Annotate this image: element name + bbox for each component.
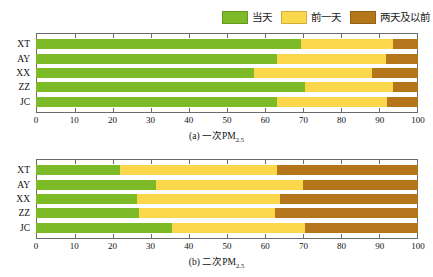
caption-subscript: 2.5: [236, 262, 244, 269]
y-axis-labels-b: XTAYXXZZJC: [0, 159, 33, 239]
bar-segment-ay-2: [303, 180, 418, 190]
x-axis-tick-50: 50: [223, 240, 232, 253]
subplot-caption-b: (b) 二次PM2.5: [0, 254, 433, 269]
bar-segment-ay-0: [36, 180, 156, 190]
caption-subscript: 2.5: [236, 136, 244, 143]
bar-row-jc: [36, 223, 418, 233]
bar-segment-xx-0: [36, 68, 254, 78]
x-axis-tick-20: 20: [108, 240, 117, 253]
x-axis-tick-90: 90: [375, 240, 384, 253]
y-axis-labels-a: XTAYXXZZJC: [0, 33, 33, 113]
bar-segment-xx-0: [36, 194, 137, 204]
y-axis-label-xt: XT: [0, 39, 33, 49]
bar-segment-xt-0: [36, 165, 120, 175]
bar-segment-zz-0: [36, 82, 305, 92]
x-axis-tick-80: 80: [337, 240, 346, 253]
y-axis-label-jc: JC: [0, 223, 33, 233]
bar-segment-xt-2: [277, 165, 418, 175]
bar-segment-xt-1: [120, 165, 277, 175]
bar-segment-xt-1: [301, 39, 393, 49]
subplot-caption-a: (a) 一次PM2.5: [0, 128, 433, 143]
x-axis-tick-0: 0: [34, 240, 39, 253]
plot-area-a: XTAYXXZZJC 0102030405060708090100: [0, 33, 433, 113]
legend-swatch-same-day-icon: [222, 11, 248, 24]
bar-segment-jc-1: [172, 223, 306, 233]
legend-item-2: 两天及以前: [350, 11, 430, 24]
y-axis-label-xx: XX: [0, 68, 33, 78]
x-axis-tick-100: 100: [411, 240, 425, 253]
y-axis-label-xx: XX: [0, 194, 33, 204]
bar-segment-jc-0: [36, 223, 172, 233]
x-axis-tick-40: 40: [184, 240, 193, 253]
caption-main: (a) 一次PM: [189, 131, 236, 141]
bar-segment-xx-1: [137, 194, 280, 204]
bar-row-xx: [36, 194, 418, 204]
bar-segment-jc-1: [277, 97, 388, 107]
bar-segment-jc-2: [305, 223, 418, 233]
x-axis-tick-90: 90: [375, 114, 384, 127]
x-axis-tick-10: 10: [70, 114, 79, 127]
bar-segment-xx-1: [254, 68, 372, 78]
bar-segment-zz-1: [305, 82, 393, 92]
x-axis-tick-40: 40: [184, 114, 193, 127]
bar-segment-zz-0: [36, 208, 139, 218]
x-axis-tick-10: 10: [70, 240, 79, 253]
y-axis-label-jc: JC: [0, 97, 33, 107]
x-axis-tick-60: 60: [261, 240, 270, 253]
x-axis-tick-0: 0: [34, 114, 39, 127]
y-axis-label-ay: AY: [0, 54, 33, 64]
bar-row-jc: [36, 97, 418, 107]
y-axis-label-zz: ZZ: [0, 208, 33, 218]
legend-swatch-previous-day-icon: [281, 11, 307, 24]
bar-row-xx: [36, 68, 418, 78]
x-axis-labels-b: 0102030405060708090100: [36, 240, 418, 253]
x-axis-tick-60: 60: [261, 114, 270, 127]
bar-segment-ay-2: [386, 54, 418, 64]
y-axis-label-ay: AY: [0, 180, 33, 190]
legend-label-1: 前一天: [311, 12, 341, 23]
x-axis-tick-70: 70: [299, 240, 308, 253]
bar-segment-xx-2: [372, 68, 418, 78]
bar-row-zz: [36, 82, 418, 92]
bar-row-zz: [36, 208, 418, 218]
bar-row-ay: [36, 54, 418, 64]
x-axis-tick-100: 100: [411, 114, 425, 127]
bar-rows-a: [36, 33, 418, 113]
legend-label-2: 两天及以前: [380, 12, 430, 23]
x-axis-tick-50: 50: [223, 114, 232, 127]
x-axis-tick-20: 20: [108, 114, 117, 127]
legend-swatch-two-days-before-icon: [350, 11, 376, 24]
x-axis-tick-70: 70: [299, 114, 308, 127]
bar-row-xt: [36, 165, 418, 175]
bar-segment-zz-2: [275, 208, 418, 218]
figure-root: 当天 前一天 两天及以前 XTAYXXZZJC 0102030405060708…: [0, 0, 433, 277]
bar-segment-zz-1: [139, 208, 275, 218]
chart-legend: 当天 前一天 两天及以前: [222, 10, 430, 25]
bar-segment-jc-2: [387, 97, 418, 107]
legend-item-1: 前一天: [281, 11, 341, 24]
legend-label-0: 当天: [252, 12, 272, 23]
bar-row-ay: [36, 180, 418, 190]
x-axis-labels-a: 0102030405060708090100: [36, 114, 418, 127]
x-axis-tick-80: 80: [337, 114, 346, 127]
bar-segment-xt-2: [393, 39, 418, 49]
bar-segment-ay-1: [156, 180, 303, 190]
x-axis-tick-30: 30: [146, 114, 155, 127]
bar-row-xt: [36, 39, 418, 49]
plot-area-b: XTAYXXZZJC 0102030405060708090100: [0, 159, 433, 239]
bar-segment-jc-0: [36, 97, 277, 107]
legend-item-0: 当天: [222, 11, 272, 24]
bar-segment-ay-0: [36, 54, 277, 64]
x-axis-tick-30: 30: [146, 240, 155, 253]
y-axis-label-zz: ZZ: [0, 82, 33, 92]
bar-segment-xx-2: [280, 194, 418, 204]
bar-segment-zz-2: [393, 82, 418, 92]
bar-rows-b: [36, 159, 418, 239]
bar-segment-xt-0: [36, 39, 301, 49]
chart-panel-a: XTAYXXZZJC 0102030405060708090100 (a) 一次…: [0, 33, 433, 113]
bar-segment-ay-1: [277, 54, 386, 64]
caption-main: (b) 二次PM: [189, 257, 236, 267]
y-axis-label-xt: XT: [0, 165, 33, 175]
chart-panel-b: XTAYXXZZJC 0102030405060708090100 (b) 二次…: [0, 159, 433, 239]
